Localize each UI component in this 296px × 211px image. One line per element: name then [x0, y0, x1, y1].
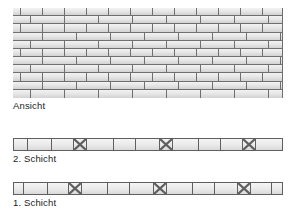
brick	[65, 65, 99, 72]
brick	[201, 65, 235, 72]
stretcher-brick-cell	[48, 183, 69, 194]
brick-course	[13, 16, 283, 24]
brick	[153, 73, 175, 80]
brick	[65, 73, 87, 80]
stretcher-brick-cell	[52, 139, 74, 150]
brick	[65, 90, 99, 98]
brick	[31, 90, 65, 98]
brick	[213, 82, 247, 89]
layer-1-caption: 1. Schicht	[13, 197, 56, 208]
brick	[13, 33, 43, 40]
brick	[99, 41, 133, 48]
stretcher-brick-cell	[193, 183, 215, 194]
brick	[175, 49, 197, 56]
brick	[77, 82, 111, 89]
brick	[175, 8, 197, 15]
brick	[219, 73, 241, 80]
brick	[133, 16, 167, 23]
brick	[235, 41, 269, 48]
elevation-brick-wall	[13, 8, 283, 98]
brick	[281, 57, 283, 64]
brick-course	[13, 8, 283, 16]
brick	[43, 8, 65, 15]
brick	[31, 16, 65, 23]
brick-course	[13, 73, 283, 81]
header-brick-cell	[160, 139, 173, 150]
brick	[65, 49, 87, 56]
brick	[13, 8, 21, 15]
layer-2-plan-strip	[13, 138, 283, 151]
brick	[201, 16, 235, 23]
brick	[145, 57, 179, 64]
layer-1-plan-strip	[13, 182, 283, 195]
stretcher-brick-cell	[136, 139, 160, 150]
brick	[109, 49, 131, 56]
brick	[43, 57, 77, 64]
brick	[175, 73, 197, 80]
brick	[197, 8, 219, 15]
layer-2-caption: 2. Schicht	[13, 153, 56, 164]
brick	[241, 73, 263, 80]
brick	[31, 41, 65, 48]
brick	[263, 73, 283, 80]
figure-root: Ansicht 2. Schicht 1. Schicht	[0, 0, 296, 211]
brick	[111, 33, 145, 40]
brick	[269, 90, 283, 98]
brick	[281, 82, 283, 89]
stretcher-brick-cell	[87, 139, 114, 150]
stretcher-brick-cell	[272, 183, 283, 194]
header-brick-cell	[154, 183, 167, 194]
brick	[87, 73, 109, 80]
brick	[247, 33, 281, 40]
brick	[153, 49, 175, 56]
brick	[21, 24, 43, 31]
brick	[99, 16, 133, 23]
brick	[111, 57, 145, 64]
brick	[167, 41, 201, 48]
brick	[13, 90, 31, 98]
brick	[21, 8, 43, 15]
brick	[281, 33, 283, 40]
brick	[21, 49, 43, 56]
stretcher-brick-cell	[14, 183, 24, 194]
stretcher-brick-cell	[14, 139, 28, 150]
brick	[263, 24, 283, 31]
brick	[65, 16, 99, 23]
brick	[13, 73, 21, 80]
brick	[235, 90, 269, 98]
brick	[219, 24, 241, 31]
brick	[87, 8, 109, 15]
brick	[213, 57, 247, 64]
stretcher-brick-cell	[130, 183, 154, 194]
brick	[99, 90, 133, 98]
brick	[65, 8, 87, 15]
brick	[109, 24, 131, 31]
brick	[77, 33, 111, 40]
stretcher-brick-cell	[28, 139, 52, 150]
stretcher-brick-cell	[251, 183, 272, 194]
brick	[43, 73, 65, 80]
stretcher-brick-cell	[24, 183, 48, 194]
brick	[131, 49, 153, 56]
stretcher-brick-cell	[215, 183, 238, 194]
brick	[65, 41, 99, 48]
brick	[269, 16, 283, 23]
stretcher-brick-cell	[256, 139, 282, 150]
brick	[197, 24, 219, 31]
brick	[175, 24, 197, 31]
brick	[13, 41, 31, 48]
brick	[131, 73, 153, 80]
brick	[133, 65, 167, 72]
brick	[13, 57, 43, 64]
brick	[269, 65, 283, 72]
stretcher-brick-cell	[82, 183, 108, 194]
stretcher-brick-cell	[108, 183, 130, 194]
brick	[77, 57, 111, 64]
brick	[213, 33, 247, 40]
brick	[131, 24, 153, 31]
brick-course	[13, 65, 283, 73]
brick	[167, 90, 201, 98]
brick	[153, 8, 175, 15]
brick	[109, 73, 131, 80]
brick	[131, 8, 153, 15]
